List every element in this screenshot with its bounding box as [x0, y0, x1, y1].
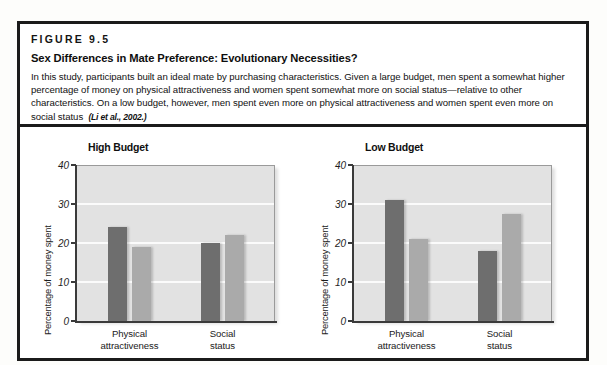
chart-title-low-budget: Low Budget: [365, 141, 423, 153]
bar-women-0: [132, 247, 151, 321]
plot-right-border: [551, 165, 552, 321]
plot-area-low-budget: [354, 165, 552, 321]
y-axis-line: [352, 165, 354, 323]
x-category-label-line: status: [173, 340, 273, 352]
y-tick-label-0: 0: [322, 316, 346, 327]
y-axis-line: [75, 165, 77, 323]
plot-top-border: [354, 165, 552, 166]
plot-right-border: [274, 165, 275, 321]
y-tick-mark-30: [348, 203, 353, 204]
x-category-label-line: Social: [173, 328, 273, 340]
y-tick-label-20: 20: [322, 238, 346, 249]
x-category-1: Socialstatus: [450, 328, 550, 351]
y-tick-label-10: 10: [322, 277, 346, 288]
chart-title-high-budget: High Budget: [88, 141, 148, 153]
x-category-label-line: attractiveness: [79, 340, 179, 352]
figure-citation: (Li et al., 2002.): [88, 112, 146, 122]
gridline-30: [354, 203, 552, 204]
gridline-20: [354, 242, 552, 243]
gridline-20: [77, 242, 275, 243]
charts-panel: High Budget Percentage of money spent 40…: [17, 127, 589, 361]
y-tick-label-10: 10: [45, 277, 69, 288]
y-tick-mark-10: [348, 281, 353, 282]
figure-description: In this study, participants built an ide…: [31, 70, 575, 124]
y-tick-label-0: 0: [45, 316, 69, 327]
x-category-label-line: Physical: [79, 328, 179, 340]
x-category-label-line: attractiveness: [356, 340, 456, 352]
x-axis-line: [75, 321, 277, 323]
plot-top-border: [77, 165, 275, 166]
y-tick-label-30: 30: [322, 199, 346, 210]
chart-low-budget: Low Budget Percentage of money spent 403…: [303, 127, 586, 358]
y-tick-mark-0: [348, 320, 353, 321]
figure-caption-box: FIGURE 9.5 Sex Differences in Mate Prefe…: [17, 21, 589, 127]
y-tick-label-40: 40: [322, 160, 346, 171]
bar-men-0: [385, 200, 404, 321]
bar-women-1: [225, 235, 244, 321]
x-category-label-line: Social: [450, 328, 550, 340]
y-tick-mark-40: [71, 164, 76, 165]
x-category-0: Physicalattractiveness: [79, 328, 179, 351]
y-tick-mark-0: [71, 320, 76, 321]
bar-men-1: [478, 251, 497, 321]
x-category-label-line: status: [450, 340, 550, 352]
bar-men-1: [201, 243, 220, 321]
x-category-1: Socialstatus: [173, 328, 273, 351]
y-tick-mark-20: [71, 242, 76, 243]
chart-high-budget: High Budget Percentage of money spent 40…: [20, 127, 303, 358]
x-category-0: Physicalattractiveness: [356, 328, 456, 351]
bar-women-0: [409, 239, 428, 321]
y-tick-label-40: 40: [45, 160, 69, 171]
y-tick-label-30: 30: [45, 199, 69, 210]
bar-men-0: [108, 227, 127, 321]
x-category-label-line: Physical: [356, 328, 456, 340]
y-tick-mark-20: [348, 242, 353, 243]
x-axis-line: [352, 321, 554, 323]
y-tick-label-20: 20: [45, 238, 69, 249]
y-tick-mark-10: [71, 281, 76, 282]
figure-title: Sex Differences in Mate Preference: Evol…: [31, 52, 575, 64]
y-tick-mark-40: [348, 164, 353, 165]
figure-container: FIGURE 9.5 Sex Differences in Mate Prefe…: [17, 21, 589, 361]
gridline-10: [77, 281, 275, 282]
gridline-30: [77, 203, 275, 204]
figure-number: FIGURE 9.5: [31, 33, 575, 45]
gridline-10: [354, 281, 552, 282]
y-tick-mark-30: [71, 203, 76, 204]
bar-women-1: [502, 214, 521, 321]
plot-area-high-budget: [77, 165, 275, 321]
